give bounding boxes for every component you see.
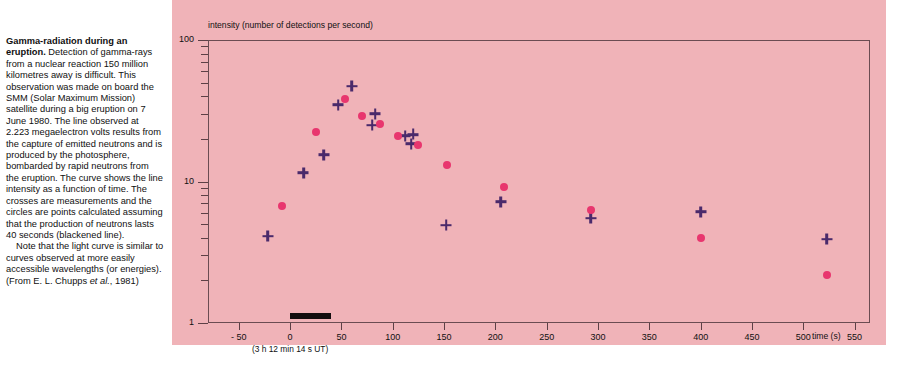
figure-caption: Gamma-radiation during an eruption. Dete… <box>6 36 164 287</box>
plot-frame <box>208 40 870 323</box>
x-axis-tick <box>547 323 548 330</box>
data-point-circle <box>443 161 451 169</box>
y-axis-tick-label: 10 <box>172 176 194 186</box>
x-axis-tick-label: 400 <box>681 332 721 342</box>
neutron-production-bar <box>290 313 331 319</box>
data-point-cross <box>495 196 506 207</box>
y-axis-tick-minor <box>201 238 208 239</box>
y-axis-tick-label: 1 <box>172 317 194 327</box>
caption-body-1: Detection of gamma-rays from a nuclear r… <box>6 47 163 240</box>
y-axis-tick-major <box>198 40 208 41</box>
y-axis-tick-major <box>198 323 208 324</box>
y-axis-tick-minor <box>201 280 208 281</box>
x-axis-tick <box>239 323 240 330</box>
x-axis-tick-label: - 50 <box>219 332 259 342</box>
y-axis-tick-minor <box>201 71 208 72</box>
data-point-cross <box>695 206 706 217</box>
x-axis-tick-label: 550 <box>835 332 875 342</box>
data-point-cross <box>262 231 273 242</box>
data-point-circle <box>376 120 384 128</box>
y-axis-tick-minor <box>201 96 208 97</box>
data-point-circle <box>697 234 705 242</box>
x-axis-tick-label: 450 <box>732 332 772 342</box>
x-axis-tick <box>855 323 856 330</box>
y-axis-title: intensity (number of detections per seco… <box>208 20 373 30</box>
y-axis-tick-minor <box>201 213 208 214</box>
data-point-circle <box>823 271 831 279</box>
data-point-circle <box>341 95 349 103</box>
x-axis-tick-label: 0 <box>270 332 310 342</box>
y-axis-tick-minor <box>201 139 208 140</box>
y-axis-tick-minor <box>201 255 208 256</box>
x-axis-tick-label: 150 <box>424 332 464 342</box>
x-axis-tick-label: 250 <box>527 332 567 342</box>
y-axis-tick-minor <box>201 224 208 225</box>
data-point-cross <box>318 149 329 160</box>
caption-body-2-pre: Note that the light curve is similar to … <box>6 241 163 285</box>
x-axis-tick <box>393 323 394 330</box>
caption-paragraph-1: Gamma-radiation during an eruption. Dete… <box>6 36 164 241</box>
y-axis-tick-minor <box>201 114 208 115</box>
x-axis-tick-label: 50 <box>321 332 361 342</box>
data-point-circle <box>358 112 366 120</box>
x-axis-tick <box>803 323 804 330</box>
data-point-circle <box>312 128 320 136</box>
data-point-circle <box>394 132 402 140</box>
x-axis-tick-label: 100 <box>373 332 413 342</box>
data-point-cross <box>441 220 452 231</box>
y-axis-tick-minor <box>201 195 208 196</box>
x-axis-tick <box>444 323 445 330</box>
x-axis-tick-label: 500 <box>783 332 823 342</box>
x-axis-tick-label: 350 <box>629 332 669 342</box>
x-axis-tick <box>649 323 650 330</box>
x-axis-tick <box>495 323 496 330</box>
x-axis-tick <box>598 323 599 330</box>
data-point-circle <box>500 183 508 191</box>
caption-body-2-post: , 1981) <box>110 276 139 286</box>
x-axis-tick <box>341 323 342 330</box>
data-point-cross <box>821 234 832 245</box>
x-axis-tick-label: 300 <box>578 332 618 342</box>
y-axis-tick-label: 100 <box>172 34 194 44</box>
x-axis-tick <box>290 323 291 330</box>
data-point-circle <box>278 202 286 210</box>
y-axis-tick-minor <box>201 188 208 189</box>
x-axis-tick-label: 200 <box>475 332 515 342</box>
data-point-circle <box>414 141 422 149</box>
time-origin-note: (3 h 12 min 14 s UT) <box>220 344 360 354</box>
x-axis-tick <box>752 323 753 330</box>
data-point-cross <box>298 167 309 178</box>
y-axis-tick-minor <box>201 62 208 63</box>
data-point-cross <box>346 81 357 92</box>
data-point-circle <box>587 206 595 214</box>
y-axis-tick-major <box>198 182 208 183</box>
caption-citation-etal: et al. <box>90 276 110 286</box>
caption-paragraph-2: Note that the light curve is similar to … <box>6 241 164 287</box>
y-axis-tick-minor <box>201 83 208 84</box>
data-point-cross <box>370 108 381 119</box>
y-axis-tick-minor <box>201 54 208 55</box>
y-axis-tick-minor <box>201 46 208 47</box>
y-axis-tick-minor <box>201 203 208 204</box>
x-axis-tick <box>701 323 702 330</box>
data-point-cross <box>585 213 596 224</box>
figure-panel: intensity (number of detections per seco… <box>172 0 886 345</box>
